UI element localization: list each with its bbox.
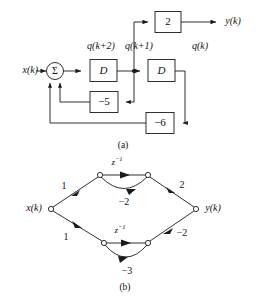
summing-junction-symbol: Σ — [52, 65, 58, 76]
diagram-b: x(k) y(k) 1 z−1 −2 2 — [25, 155, 221, 293]
caption-a: (a) — [118, 140, 129, 151]
sfg-node-upper-left — [97, 172, 102, 177]
sfg-branch-lower-feedback — [105, 245, 147, 257]
label-input-xk: x(k) — [21, 64, 38, 76]
sfg-branch-lower-out — [150, 211, 194, 241]
sfg-arrow-upper-feedback — [126, 189, 136, 195]
sfg-label-lower-delay: z−1 — [113, 223, 125, 235]
figure-canvas: Σ D D 2 y(k) x(k) q(k+2) — [0, 0, 265, 303]
sfg-node-input — [48, 206, 53, 211]
block-delay-2-label: D — [157, 64, 166, 76]
figure-svg: Σ D D 2 y(k) x(k) q(k+2) — [0, 0, 265, 303]
sfg-label-input-xk: x(k) — [25, 202, 42, 214]
sfg-node-lower-left — [101, 240, 106, 245]
sfg-branch-upper-in — [53, 177, 98, 207]
sfg-label-upper-in: 1 — [62, 180, 67, 191]
sfg-arrow-upper-delay — [120, 172, 130, 179]
sfg-arrow-lower-feedback — [118, 256, 128, 263]
sfg-node-lower-right — [145, 240, 150, 245]
label-qk: q(k) — [192, 40, 209, 52]
sfg-label-lower-out: −2 — [177, 227, 188, 238]
sfg-arrow-upper-in — [71, 190, 80, 196]
sfg-arrow-upper-out — [166, 187, 175, 193]
wire-gain-minus5-to-summer — [60, 83, 90, 102]
block-delay-1-label: D — [99, 64, 108, 76]
sfg-label-output-yk: y(k) — [204, 202, 221, 214]
sfg-label-upper-delay: z−1 — [110, 155, 122, 167]
block-gain-minus6-label: −6 — [154, 116, 166, 128]
sfg-branch-upper-feedback — [101, 177, 147, 189]
sfg-label-upper-out: 2 — [180, 179, 185, 190]
label-qk-plus-1: q(k+1) — [125, 40, 154, 52]
sfg-label-lower-in: 1 — [64, 231, 69, 242]
wire-node-to-gain-minus5 — [126, 71, 134, 102]
sfg-label-upper-feedback: −2 — [119, 196, 130, 207]
sfg-arrow-lower-delay — [121, 240, 131, 247]
sfg-node-output — [193, 206, 198, 211]
sfg-node-upper-right — [145, 172, 150, 177]
diagram-a: Σ D D 2 y(k) x(k) q(k+2) — [21, 12, 241, 152]
caption-b: (b) — [119, 282, 130, 293]
block-gain-minus5-label: −5 — [98, 95, 110, 107]
sfg-arrow-lower-in — [72, 221, 82, 228]
wire-delay2-to-gain-minus6 — [175, 71, 185, 123]
label-output-yk: y(k) — [224, 15, 241, 27]
block-gain-output-label: 2 — [165, 15, 171, 27]
sfg-label-lower-feedback: −3 — [122, 265, 133, 276]
label-qk-plus-2: q(k+2) — [87, 40, 116, 52]
